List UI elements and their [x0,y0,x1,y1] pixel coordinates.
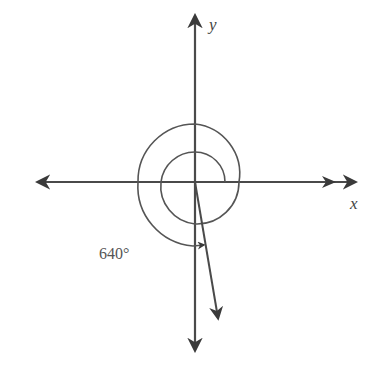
y-axis-label: y [207,15,217,34]
terminal-ray [195,182,218,318]
rotation-spiral [138,124,240,246]
diagram-canvas: y x 640° [0,0,385,373]
angle-diagram: y x 640° [0,0,385,373]
angle-label: 640° [99,245,129,262]
x-axis-label: x [349,194,358,213]
